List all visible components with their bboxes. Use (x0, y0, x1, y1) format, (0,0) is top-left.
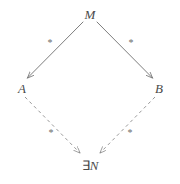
edge-B-to-N (100, 97, 155, 153)
edge-label-A-to-N: * (42, 128, 60, 138)
node-label-A: A (9, 82, 35, 95)
node-name-N: N (90, 158, 99, 173)
edge-M-to-B (97, 22, 153, 78)
edge-label-B-to-N: * (121, 128, 139, 138)
node-label-M: M (77, 8, 103, 21)
edge-A-to-N (25, 97, 80, 153)
commutative-diagram: M A B ∃N * * * * (0, 0, 180, 184)
exists-quantifier-symbol: ∃ (82, 158, 90, 173)
edge-label-M-to-B: * (122, 38, 140, 48)
node-label-exists-N: ∃N (76, 159, 104, 172)
node-label-B: B (146, 82, 172, 95)
edge-M-to-A (28, 22, 84, 78)
edge-label-M-to-A: * (41, 38, 59, 48)
